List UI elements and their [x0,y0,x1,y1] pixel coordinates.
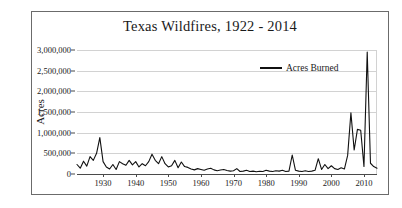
y-axis-tick-label: 1,000,000 [37,128,71,138]
y-axis-tick-label: 3,000,000 [37,45,71,55]
x-axis-tick-label: 1950 [160,178,177,188]
x-axis-tick-label: 2000 [323,178,340,188]
x-axis-tick-label: 1990 [290,178,307,188]
y-axis-tick-mark [71,112,75,113]
x-axis-tick-mark [168,174,169,177]
x-axis-tick-label: 1980 [258,178,275,188]
y-axis-tick-labels: 3,000,0002,500,0002,000,0001,500,0001,00… [32,50,75,174]
y-axis-tick-mark [71,153,75,154]
y-axis-tick-mark [71,50,75,51]
chart-figure: Texas Wildfires, 1922 - 2014 Acres 3,000… [31,11,389,195]
x-axis-tick-mark [266,174,267,177]
chart-title: Texas Wildfires, 1922 - 2014 [32,18,388,35]
x-axis-tick-label: 1960 [192,178,209,188]
x-axis-tick-mark [136,174,137,177]
x-axis-tick-mark [201,174,202,177]
x-axis-tick-label: 1930 [95,178,112,188]
x-axis-tick-mark [234,174,235,177]
x-axis-tick-mark [299,174,300,177]
x-axis-tick-mark [103,174,104,177]
x-axis-tick-label: 2010 [355,178,372,188]
chart-legend: Acres Burned [260,63,339,73]
legend-line-swatch [260,67,282,69]
y-axis-tick-label: 2,500,000 [37,66,71,76]
y-axis-tick-mark [71,91,75,92]
y-axis-tick-label: 2,000,000 [37,86,71,96]
y-axis-tick-mark [71,70,75,71]
y-axis-tick-label: 1,500,000 [37,107,71,117]
x-axis-tick-label: 1940 [127,178,144,188]
y-axis-tick-mark [71,174,75,175]
y-axis-tick-label: 500,000 [43,148,71,158]
y-axis-tick-mark [71,132,75,133]
x-axis-tick-mark [364,174,365,177]
x-axis-tick-mark [331,174,332,177]
x-axis: 193019401950196019701980199020002010 [77,174,377,194]
legend-label-acres-burned: Acres Burned [286,63,339,73]
x-axis-tick-label: 1970 [225,178,242,188]
